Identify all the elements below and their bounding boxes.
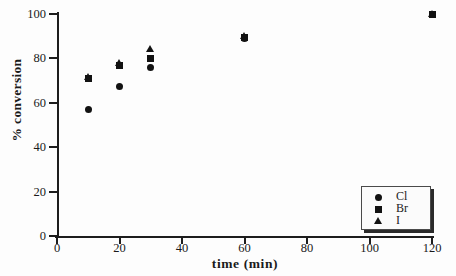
x-tick-label: 40 bbox=[162, 242, 202, 255]
x-tick-label: 100 bbox=[350, 242, 390, 255]
data-point-br bbox=[147, 55, 154, 62]
data-point-i bbox=[240, 32, 248, 39]
data-point-cl bbox=[85, 106, 92, 113]
data-point-i bbox=[84, 73, 92, 80]
x-tick-label: 80 bbox=[287, 242, 327, 255]
legend-entry-i: I bbox=[362, 215, 430, 228]
y-tick-label: 100 bbox=[0, 8, 46, 20]
legend-box: ClBrI bbox=[361, 186, 431, 230]
data-point-cl bbox=[147, 64, 154, 71]
circle-marker-icon bbox=[375, 194, 382, 201]
data-point-i bbox=[115, 59, 123, 66]
square-marker-icon bbox=[375, 206, 382, 213]
data-point-i bbox=[146, 45, 154, 52]
y-axis-title: % conversion bbox=[9, 40, 25, 160]
scatter-chart-figure: 020406080100 020406080100120 % conversio… bbox=[0, 0, 456, 276]
data-point-cl bbox=[116, 83, 123, 90]
x-tick-label: 120 bbox=[412, 242, 452, 255]
data-point-i bbox=[428, 10, 436, 17]
y-tick-label: 0 bbox=[0, 230, 46, 242]
x-tick-label: 0 bbox=[37, 242, 77, 255]
y-tick-label: 20 bbox=[0, 186, 46, 198]
legend-label: I bbox=[396, 214, 400, 227]
triangle-marker-icon bbox=[374, 217, 382, 224]
x-tick-label: 60 bbox=[225, 242, 265, 255]
x-tick-label: 20 bbox=[100, 242, 140, 255]
x-axis-title: time (min) bbox=[155, 256, 335, 272]
